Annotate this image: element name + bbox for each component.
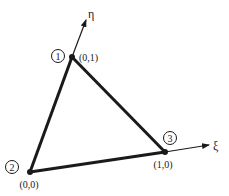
xi-axis-label: ξ xyxy=(213,139,219,153)
node-3-number: 3 xyxy=(168,133,173,144)
node-1-number: 1 xyxy=(56,51,61,62)
edge-1-3 xyxy=(72,57,165,152)
node-3-coord: (1,0) xyxy=(153,159,172,171)
node-1-point xyxy=(69,54,75,60)
edge-2-3 xyxy=(30,152,165,172)
node-1-coord: (0,1) xyxy=(79,52,98,64)
xi-axis xyxy=(165,145,209,152)
node-2-number: 2 xyxy=(10,162,15,173)
node-3-point xyxy=(162,149,168,155)
eta-axis-label: η xyxy=(88,7,94,21)
triangle-element-diagram: η ξ 1 (0,1) 2 (0,0) 3 (1,0) xyxy=(0,0,229,196)
node-2-coord: (0,0) xyxy=(19,179,38,191)
node-2-point xyxy=(27,169,33,175)
edge-1-2 xyxy=(30,57,72,172)
